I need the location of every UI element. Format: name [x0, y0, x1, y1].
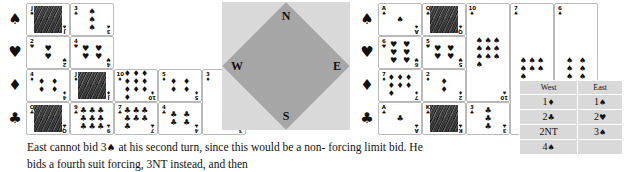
playing-card: 10♦10♦♦♦♦♦♦♦♦♦♦♦: [114, 69, 158, 102]
card-pip: ♠: [476, 61, 483, 69]
bid-cell-east: 2♥: [578, 110, 623, 125]
bid-suit-icon: ♦: [548, 98, 555, 107]
bid-suit-icon: ♣: [548, 113, 555, 122]
playing-card: 2♦2♦♦♦: [422, 69, 466, 102]
card-pip: ♦: [170, 86, 177, 94]
card-pip: ♥: [434, 53, 441, 61]
bid-suit-icon: ♠: [599, 98, 606, 107]
card-pip: ♦: [440, 86, 447, 94]
card-pip-field: ♥♥♥♥♥♥: [387, 39, 413, 66]
caption-line1-part2: at his second turn, since this would be …: [116, 141, 326, 153]
card-pip-field: ♥♥♥♥: [431, 39, 457, 66]
compass-west-label: W: [231, 60, 243, 72]
playing-card: 3♠3♠♠♠♠: [70, 3, 114, 36]
card-pip: ♠: [493, 53, 500, 61]
card-pip: ♣: [124, 123, 131, 131]
card-pip-field: ♠♠♠: [79, 6, 105, 33]
card-corner-index: 9♣: [105, 123, 112, 133]
card-pip-field: ♥♥: [35, 39, 61, 66]
card-corner-index: 2♥: [61, 57, 68, 67]
court-card-art: [34, 105, 62, 132]
playing-card: J♦J♦: [70, 69, 114, 102]
card-pip: ♣: [88, 123, 95, 131]
bidding-table: West East 1♦1♠2♣2♥2NT3♠4♠: [519, 80, 623, 155]
playing-card: 5♥5♥♥♥♥♥: [422, 36, 466, 69]
bid-cell-west: 4♠: [520, 140, 578, 155]
card-pip: ♦: [132, 86, 139, 94]
court-card-art: [430, 105, 458, 132]
bid-suit-icon: ♥: [599, 113, 606, 122]
card-pip: ♣: [484, 123, 491, 131]
card-pip: ♣: [396, 115, 403, 123]
card-pip: ♠: [484, 53, 491, 61]
card-pip: ♠: [537, 65, 544, 73]
card-corner-index: A♣: [413, 123, 420, 133]
playing-card: 6♥6♥♥♥♥♥♥♥: [378, 36, 422, 69]
card-pip: ♦: [388, 90, 395, 98]
suit-index-column-west: ♠ ♥ ♦ ♣: [4, 3, 26, 135]
club-suit-icon: ♣: [356, 102, 378, 135]
compass-diagram: N W E S: [222, 2, 350, 130]
card-pip: ♣: [132, 115, 139, 123]
card-pip: ♣: [141, 115, 148, 123]
bidding-header-west: West: [520, 81, 578, 95]
bid-cell-west: 2NT: [520, 125, 578, 140]
card-pip-field: ♥♥♥♥: [79, 39, 105, 66]
card-corner-index: 2♦: [457, 90, 464, 100]
diamond-suit-icon: ♦: [356, 69, 378, 102]
card-corner-index: 4♥: [105, 57, 112, 67]
suit-index-column-east: ♠ ♥ ♦ ♣: [356, 3, 378, 135]
diamond-suit-icon: ♦: [4, 69, 26, 102]
playing-card: J♠J♠: [26, 3, 70, 36]
caption-text: East cannot bid 3♠ at his second turn, s…: [27, 139, 427, 172]
club-suit-icon: ♣: [4, 102, 26, 135]
card-corner-index: 3♠: [105, 24, 112, 34]
playing-card: 4♣4♣♣♣♣♣: [158, 102, 202, 135]
card-pip-field: ♦♦♦♦♦♦♦: [387, 72, 413, 99]
card-corner-index: 7♣: [149, 123, 156, 133]
compass-south-label: S: [283, 110, 290, 122]
bid-cell-east: 3♠: [578, 125, 623, 140]
bid-cell-west: 1♦: [520, 95, 578, 110]
bidding-header-east: East: [578, 81, 623, 95]
card-pip: ♣: [183, 119, 190, 127]
playing-card: 2♥2♥♥♥: [26, 36, 70, 69]
card-pip-field: ♠♠♠♠♠♠♠♠♠♠: [475, 6, 501, 99]
card-pip: ♣: [80, 123, 87, 131]
card-pip-field: ♦♦♦♦: [167, 72, 193, 99]
playing-card: 9♣9♣♣♣♣♣♣♣♣♣♣: [70, 102, 114, 135]
card-pip-field: ♦♦♦♦♦♦♦♦♦♦: [123, 72, 149, 99]
card-pip-field: ♣♣♣♣♣♣♣♣♣: [79, 105, 105, 132]
bid-suit-icon: ♠: [599, 128, 606, 137]
card-pip: ♦: [405, 82, 412, 90]
card-corner-index: 4♣: [193, 123, 200, 133]
card-pip: ♣: [97, 123, 104, 131]
card-corner-index: 10♠: [501, 90, 508, 100]
card-pip-field: ♠: [387, 6, 413, 33]
caption-line1-part1: East cannot bid 3: [27, 141, 107, 153]
playing-card: A♣A♣♣: [378, 102, 422, 135]
card-pip: ♥: [403, 57, 410, 65]
spade-suit-icon: ♠: [4, 3, 26, 36]
card-pip-field: ♣♣♣♣♣♣♣: [123, 105, 149, 132]
card-pip: ♦: [141, 86, 148, 94]
bid-cell-east: 1♠: [578, 95, 623, 110]
card-corner-index: 6♥: [413, 57, 420, 67]
card-pip: ♠: [528, 65, 535, 73]
bridge-figure-page: ♠ ♥ ♦ ♣ J♠J♠3♠3♠♠♠♠ 2♥2♥♥♥4♥4♥♥♥♥♥ 4♦4♦♦…: [0, 0, 631, 172]
playing-card: 10♠10♠♠♠♠♠♠♠♠♠♠♠: [466, 3, 510, 102]
card-pip-field: ♦♦♦♦: [35, 72, 61, 99]
playing-card: 4♥4♥♥♥♥♥: [70, 36, 114, 69]
bidding-row: 1♦1♠: [520, 95, 623, 110]
card-pip-field: ♦♦: [431, 72, 457, 99]
card-pip: ♦: [51, 86, 58, 94]
bid-cell-west: 2♣: [520, 110, 578, 125]
card-pip-field: ♣: [387, 105, 413, 132]
card-pip: ♦: [183, 86, 190, 94]
playing-card: 7♦7♦♦♦♦♦♦♦♦: [378, 69, 422, 102]
spade-suit-icon: ♠: [107, 142, 116, 153]
card-pip-field: ♣♣♣♣: [167, 105, 193, 132]
card-corner-index: 4♦: [61, 90, 68, 100]
card-corner-index: 5♥: [457, 57, 464, 67]
card-pip: ♥: [82, 53, 89, 61]
